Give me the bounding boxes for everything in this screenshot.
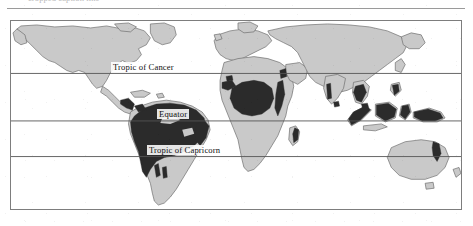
cropped-caption-text: cropped caption line <box>28 0 99 3</box>
rainforest-guinea-coast <box>226 75 233 81</box>
label-tropic-of-capricorn: Tropic of Capricorn <box>147 145 222 155</box>
rainforest-andes-fingers-2 <box>162 166 167 178</box>
rainforest-western-ghats <box>327 83 332 99</box>
landmass-tasmania <box>425 182 434 189</box>
label-equator: Equator <box>157 109 189 119</box>
world-map-graphic: .land { fill:#c9c9c9; stroke:#6e6e6e; st… <box>11 21 461 209</box>
horizontal-rule <box>7 8 465 9</box>
label-tropic-of-cancer: Tropic of Cancer <box>111 62 176 72</box>
rainforest-sri-lanka <box>334 101 340 107</box>
world-map-figure: .land { fill:#c9c9c9; stroke:#6e6e6e; st… <box>10 20 462 210</box>
